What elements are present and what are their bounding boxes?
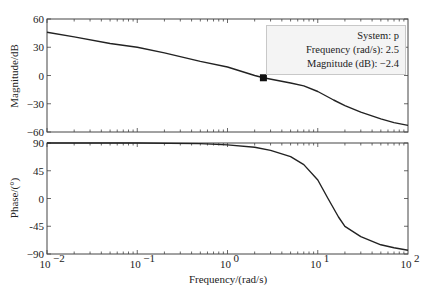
x-tick-label: 10 (130, 258, 142, 270)
plot-frame (47, 143, 408, 254)
x-tick-exponent: 2 (414, 252, 420, 264)
phase-panel: 90450-45−9010−210−1100101102 (27, 137, 420, 270)
x-tick-label: 10 (40, 258, 52, 270)
datatip-marker[interactable] (260, 74, 267, 81)
datatip-frequency: Frequency (rad/s): 2.5 (275, 43, 399, 57)
y-tick-label: 90 (33, 137, 45, 149)
y-tick-label: −30 (27, 98, 45, 110)
datatip-magnitude: Magnitude (dB): −2.4 (275, 57, 399, 71)
y-tick-label: 0 (39, 70, 45, 82)
x-tick-exponent: −1 (143, 252, 155, 264)
x-tick-exponent: 0 (234, 252, 240, 264)
phase-axis-label: Phase/(°) (8, 177, 21, 218)
y-tick-label: 0 (39, 193, 45, 205)
x-tick-label: 10 (401, 258, 413, 270)
y-tick-label: 45 (33, 165, 45, 177)
datatip-box: System: p Frequency (rad/s): 2.5 Magnitu… (266, 25, 406, 75)
x-tick-label: 10 (220, 258, 232, 270)
x-tick-label: 10 (310, 258, 322, 270)
frequency-axis-label: Frequency/(rad/s) (189, 273, 268, 286)
magnitude-axis-label: Magnitude/dB (8, 44, 20, 108)
x-tick-exponent: 1 (324, 252, 330, 264)
datatip-system: System: p (275, 29, 399, 43)
y-tick-label: 60 (33, 13, 45, 25)
y-tick-label: -45 (29, 220, 44, 232)
x-tick-exponent: −2 (53, 252, 65, 264)
y-tick-label: 30 (33, 41, 45, 53)
